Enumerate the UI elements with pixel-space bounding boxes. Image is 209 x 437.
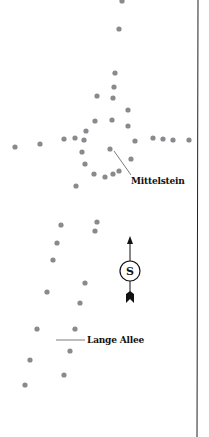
station-dot bbox=[102, 174, 107, 179]
station-dot bbox=[94, 93, 99, 98]
label-mittelstein: Mittelstein bbox=[131, 176, 185, 186]
station-dot bbox=[128, 156, 133, 161]
station-dot bbox=[72, 135, 77, 140]
station-dot bbox=[72, 326, 77, 331]
station-dot bbox=[92, 118, 97, 123]
station-dot bbox=[110, 171, 115, 176]
station-dot bbox=[119, 0, 124, 4]
station-dot bbox=[54, 240, 59, 245]
station-dot bbox=[116, 168, 121, 173]
station-dot bbox=[116, 26, 121, 31]
station-dot bbox=[22, 382, 27, 387]
station-dot bbox=[112, 70, 117, 75]
label-lange-allee: Lange Allee bbox=[87, 335, 144, 345]
station-dot bbox=[132, 138, 137, 143]
station-dot bbox=[170, 137, 175, 142]
station-dot bbox=[82, 280, 87, 285]
station-dot bbox=[82, 161, 87, 166]
station-dot bbox=[150, 135, 155, 140]
compass-letter: S bbox=[126, 265, 134, 278]
map-border-right bbox=[197, 0, 198, 437]
station-dot bbox=[73, 183, 78, 188]
station-dot bbox=[58, 222, 63, 227]
station-dot bbox=[109, 117, 114, 122]
station-dot bbox=[110, 95, 115, 100]
station-dot bbox=[50, 257, 55, 262]
station-dot bbox=[77, 300, 82, 305]
station-dots bbox=[12, 0, 191, 388]
station-dot bbox=[34, 326, 39, 331]
station-dot bbox=[91, 171, 96, 176]
map-canvas: S bbox=[0, 0, 209, 437]
station-dot bbox=[111, 84, 116, 89]
station-dot bbox=[37, 141, 42, 146]
station-dot bbox=[160, 136, 165, 141]
station-dot bbox=[44, 289, 49, 294]
station-dot bbox=[186, 137, 191, 142]
station-dot bbox=[67, 348, 72, 353]
station-dot bbox=[27, 357, 32, 362]
station-dot bbox=[125, 123, 130, 128]
station-dot bbox=[81, 137, 86, 142]
station-dot bbox=[94, 219, 99, 224]
station-dot bbox=[12, 144, 17, 149]
station-dot bbox=[125, 107, 130, 112]
station-dot bbox=[83, 128, 88, 133]
station-dot bbox=[107, 146, 112, 151]
station-dot bbox=[79, 149, 84, 154]
station-dot bbox=[61, 372, 66, 377]
station-dot bbox=[61, 136, 66, 141]
station-dot bbox=[92, 228, 97, 233]
